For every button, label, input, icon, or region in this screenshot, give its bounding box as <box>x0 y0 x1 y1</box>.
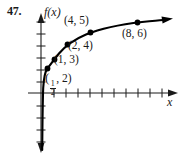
point-label-8-6: (8, 6) <box>122 28 147 40</box>
data-point <box>88 30 94 36</box>
point-label-1-3: (1, 3) <box>54 54 79 66</box>
point-label-half-2-rest: , 2) <box>56 72 71 84</box>
fraction-one-half: 12 <box>50 80 56 97</box>
point-label-half-2: (12, 2) <box>45 71 72 97</box>
y-axis-label: f(x) <box>44 5 61 19</box>
plot-svg: f(x) x <box>0 0 190 160</box>
point-label-2-4: (2, 4) <box>68 40 93 52</box>
data-point <box>135 20 141 26</box>
figure-container: 47. <box>0 0 190 160</box>
fraction-denominator: 2 <box>50 89 56 97</box>
paren-open: ( <box>45 70 49 85</box>
x-axis-label: x <box>166 95 173 109</box>
point-label-4-5: (4, 5) <box>64 15 89 27</box>
fraction-numerator: 1 <box>50 80 56 88</box>
